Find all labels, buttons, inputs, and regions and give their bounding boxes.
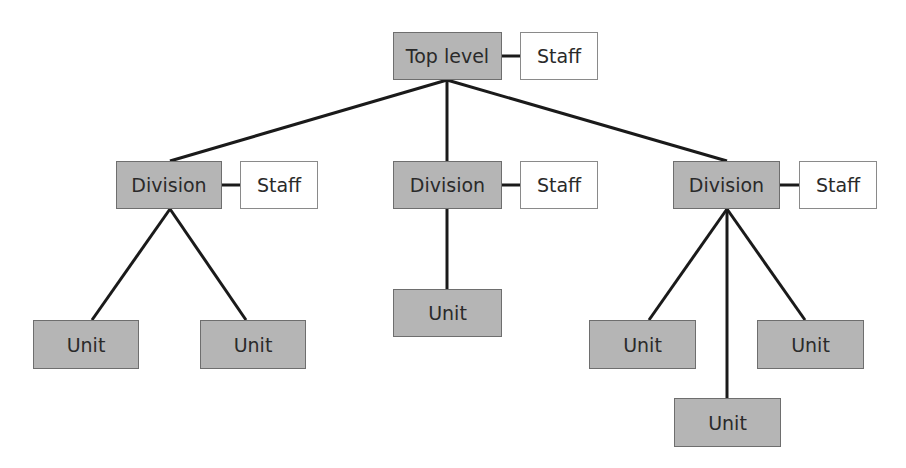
- connector-top-div1: [170, 80, 447, 161]
- node-div3_staff: Staff: [799, 161, 877, 209]
- node-label: Staff: [257, 174, 301, 196]
- node-div2: Division: [393, 161, 502, 209]
- node-label: Staff: [537, 45, 581, 67]
- node-label: Unit: [791, 334, 830, 356]
- node-unit5: Unit: [757, 320, 864, 369]
- node-label: Unit: [708, 412, 747, 434]
- node-label: Top level: [406, 45, 489, 67]
- node-div1_staff: Staff: [240, 161, 318, 209]
- node-label: Division: [131, 174, 206, 196]
- node-unit2: Unit: [200, 320, 306, 369]
- node-unit3: Unit: [393, 289, 502, 337]
- node-unit4: Unit: [589, 320, 696, 369]
- connector-div1-unit1: [92, 209, 170, 320]
- connector-top-div3: [447, 80, 727, 161]
- node-label: Unit: [623, 334, 662, 356]
- node-label: Staff: [816, 174, 860, 196]
- connector-div3-unit4: [649, 209, 727, 320]
- node-top_staff: Staff: [520, 32, 598, 80]
- org-chart: Top levelStaffDivisionStaffDivisionStaff…: [0, 0, 906, 468]
- connector-div3-unit5: [727, 209, 805, 320]
- connector-div1-unit2: [170, 209, 246, 320]
- node-div3: Division: [673, 161, 780, 209]
- node-unit6: Unit: [674, 398, 781, 447]
- node-div2_staff: Staff: [520, 161, 598, 209]
- node-label: Division: [689, 174, 764, 196]
- node-label: Division: [410, 174, 485, 196]
- node-unit1: Unit: [33, 320, 139, 369]
- node-label: Staff: [537, 174, 581, 196]
- node-label: Unit: [234, 334, 273, 356]
- node-top: Top level: [393, 32, 502, 80]
- node-div1: Division: [116, 161, 222, 209]
- node-label: Unit: [428, 302, 467, 324]
- node-label: Unit: [67, 334, 106, 356]
